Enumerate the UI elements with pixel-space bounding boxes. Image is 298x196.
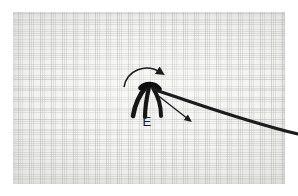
photograph-frame: E <box>0 0 298 196</box>
working-thread <box>155 90 298 134</box>
stitch-strand-center <box>145 87 149 117</box>
stitch-annotation-overlay <box>0 0 298 196</box>
stitch-point-label-e: E <box>139 114 155 129</box>
